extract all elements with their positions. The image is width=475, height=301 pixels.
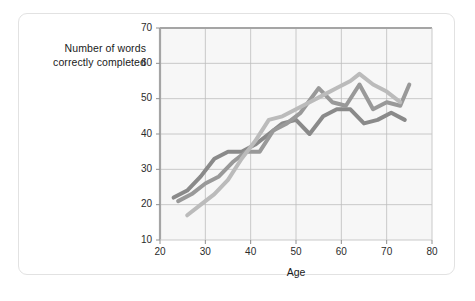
x-tick-label-30: 30 — [192, 246, 218, 257]
y-tick-label-70: 70 — [126, 22, 152, 33]
y-tick-label-20: 20 — [126, 198, 152, 209]
y-tick-label-60: 60 — [126, 57, 152, 68]
y-tick-label-40: 40 — [126, 128, 152, 139]
x-tick-label-70: 70 — [374, 246, 400, 257]
x-tick-label-40: 40 — [238, 246, 264, 257]
x-tick-label-80: 80 — [419, 246, 445, 257]
chart-figure: Number of words correctly completed Age … — [0, 0, 475, 301]
y-tick-label-10: 10 — [126, 234, 152, 245]
x-tick-label-60: 60 — [328, 246, 354, 257]
x-tick-label-20: 20 — [147, 246, 173, 257]
y-tick-label-30: 30 — [126, 163, 152, 174]
x-tick-label-50: 50 — [283, 246, 309, 257]
y-tick-label-50: 50 — [126, 92, 152, 103]
